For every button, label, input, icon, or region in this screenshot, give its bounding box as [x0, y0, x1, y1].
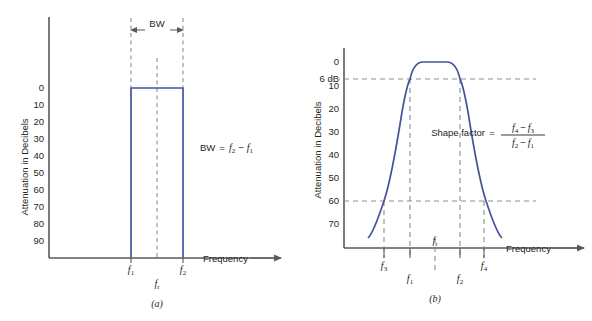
- panel-b-ytick-6db: 6 dB: [319, 73, 339, 84]
- panel-b-ytick-50: 50: [328, 172, 339, 183]
- panel-b-xlabel-f2: f2: [457, 273, 464, 286]
- panel-a-xlabel-f2: f2: [180, 264, 187, 277]
- panel-b-xlabel-f4: f4: [481, 260, 488, 273]
- panel-a-ytick-90: 90: [33, 235, 44, 246]
- panel-a-ytick-40: 40: [33, 150, 44, 161]
- panel-b-ytick-40: 40: [328, 149, 339, 160]
- panel-a-xlabel-f1: f1: [128, 264, 135, 277]
- panel-a-bw-label: BW: [149, 18, 164, 29]
- panel-b-equation-numerator: f4−f3: [512, 122, 535, 135]
- panel-a-ytick-60: 60: [33, 184, 44, 195]
- panel-b-y-axis-title: Attenuation in Decibels: [312, 101, 323, 198]
- panel-b-equation-lhs: Shape factor: [431, 127, 485, 138]
- panel-a-ytick-0: 0: [39, 82, 44, 93]
- panel-b-equation-equals: =: [489, 127, 495, 138]
- panel-b-response-curve: [368, 62, 502, 238]
- panel-a-ytick-20: 20: [33, 116, 44, 127]
- figure-root: 0 10 20 30 40 50 60 70 80 90 Attenuation…: [0, 0, 592, 321]
- panel-b-svg: 0 10 20 30 40 50 60 70 6 dB Attenuation …: [296, 0, 592, 321]
- panel-b-ytick-0: 0: [334, 56, 339, 67]
- panel-a-caption: (a): [151, 298, 163, 310]
- panel-b-practical-filter: 0 10 20 30 40 50 60 70 6 dB Attenuation …: [296, 0, 592, 321]
- panel-b-ytick-30: 30: [328, 126, 339, 137]
- panel-b-equation: Shape factor = f4−f3 f2−f1: [431, 122, 545, 150]
- panel-b-equation-denominator: f2−f1: [512, 137, 535, 150]
- panel-b-xlabel-f3: f3: [381, 260, 388, 273]
- panel-a-x-axis-title: Frequency: [203, 253, 248, 264]
- panel-b-ytick-20: 20: [328, 103, 339, 114]
- panel-a-ytick-10: 10: [33, 99, 44, 110]
- panel-a-svg: 0 10 20 30 40 50 60 70 80 90 Attenuation…: [0, 0, 296, 321]
- panel-a-xlabel-fr: fr: [154, 278, 160, 291]
- panel-b-caption: (b): [429, 293, 441, 305]
- panel-a-ytick-80: 80: [33, 218, 44, 229]
- panel-a-ytick-50: 50: [33, 167, 44, 178]
- panel-a-freq-arrowhead: [274, 255, 282, 262]
- panel-a-y-axis-title: Attenuation in Decibels: [19, 118, 30, 215]
- panel-a-ytick-30: 30: [33, 133, 44, 144]
- panel-a-equation: BW=f2−f1: [200, 142, 254, 155]
- panel-a-ytick-70: 70: [33, 201, 44, 212]
- panel-b-ytick-70: 70: [328, 218, 339, 229]
- panel-b-xlabel-f1: f1: [407, 273, 414, 286]
- panel-a-ideal-filter: 0 10 20 30 40 50 60 70 80 90 Attenuation…: [0, 0, 296, 321]
- panel-b-xlabel-fr: fr: [432, 235, 438, 248]
- panel-b-freq-arrowhead: [577, 245, 585, 252]
- panel-b-ytick-60: 60: [328, 195, 339, 206]
- panel-b-x-axis-title: Frequency: [506, 243, 551, 254]
